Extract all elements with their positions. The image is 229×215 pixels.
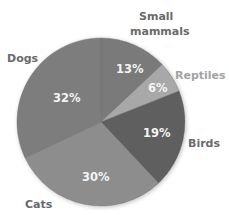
label-cats: Cats	[25, 198, 53, 211]
pie-chart: 13% 6% 19% 30% 32% Small mammals Reptile…	[0, 0, 229, 215]
label-dogs: Dogs	[7, 52, 39, 65]
pct-label-reptiles: 6%	[148, 81, 168, 95]
pct-label-birds: 19%	[143, 126, 171, 140]
label-small-mammals-line1: Small	[139, 10, 173, 23]
pct-label-dogs: 32%	[53, 91, 81, 105]
pct-label-small-mammals: 13%	[116, 62, 144, 76]
label-small-mammals-line2: mammals	[130, 25, 190, 38]
pct-label-cats: 30%	[82, 170, 110, 184]
label-reptiles: Reptiles	[175, 69, 226, 82]
label-birds: Birds	[188, 137, 220, 150]
